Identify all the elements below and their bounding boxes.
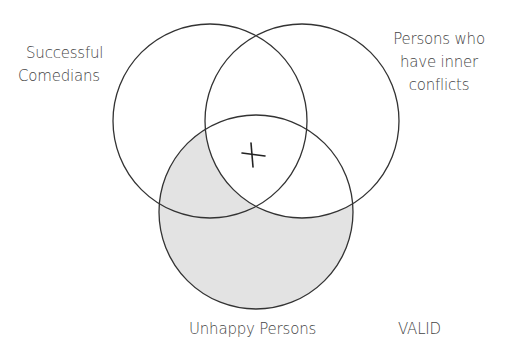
- label-successful-comedians: Successful Comedians: [18, 42, 103, 88]
- label-line: Successful: [18, 42, 103, 65]
- label-line: Persons who: [384, 28, 494, 51]
- label-line: Unhappy Persons: [189, 318, 316, 341]
- verdict-text: VALID: [398, 318, 441, 341]
- label-line: have inner: [384, 51, 494, 74]
- label-unhappy-persons: Unhappy Persons: [189, 318, 316, 341]
- label-line: Comedians: [18, 65, 103, 88]
- label-inner-conflicts: Persons who have inner conflicts: [384, 28, 494, 97]
- verdict-label: VALID: [398, 318, 441, 341]
- label-line: conflicts: [384, 74, 494, 97]
